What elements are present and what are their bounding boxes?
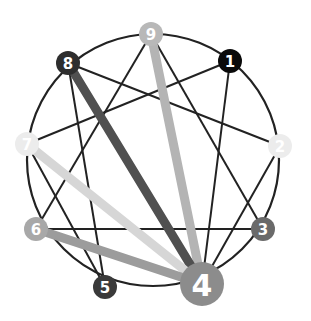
node-5: 5 bbox=[93, 275, 117, 299]
node-6: 6 bbox=[24, 217, 48, 241]
node-label: 9 bbox=[146, 26, 156, 44]
node-label: 8 bbox=[63, 55, 73, 73]
line-1-4 bbox=[202, 61, 230, 284]
node-2: 2 bbox=[268, 134, 292, 158]
node-label: 6 bbox=[31, 221, 41, 239]
node-3: 3 bbox=[251, 217, 275, 241]
node-4: 4 bbox=[180, 262, 224, 306]
node-label: 5 bbox=[100, 279, 110, 297]
line-4-2 bbox=[202, 146, 280, 284]
node-1: 1 bbox=[218, 49, 242, 73]
node-label: 3 bbox=[258, 221, 268, 239]
node-label: 2 bbox=[275, 138, 285, 156]
enneagram-diagram: 123456789 bbox=[0, 0, 311, 321]
node-8: 8 bbox=[56, 51, 80, 75]
node-label: 1 bbox=[225, 53, 235, 71]
node-label: 7 bbox=[22, 136, 32, 154]
node-label: 4 bbox=[192, 268, 213, 303]
thick-connection-lines bbox=[27, 34, 202, 284]
node-9: 9 bbox=[139, 22, 163, 46]
node-7: 7 bbox=[15, 132, 39, 156]
